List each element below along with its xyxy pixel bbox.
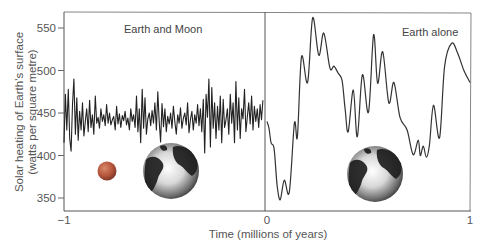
earth-illustration-left [143, 143, 199, 199]
top-border [64, 12, 471, 13]
y-tick-label: 400 [37, 150, 56, 162]
panel-label-earth-alone: Earth alone [402, 26, 458, 38]
y-tick-label: 500 [37, 65, 56, 77]
y-tick-label: 350 [37, 192, 56, 204]
series-line-earth-and-moon [64, 79, 263, 153]
x-tick-label: 0 [264, 214, 270, 226]
x-tick-label: −1 [57, 214, 70, 226]
moon-illustration [98, 162, 117, 181]
y-axis-title: Solar heating of Earth's surface [13, 32, 25, 192]
earth-illustration-right [347, 146, 403, 202]
x-axis-ticks: −101 [57, 214, 473, 226]
right-border [470, 13, 471, 211]
x-axis-title: Time (millions of years) [209, 228, 328, 240]
y-tick-label: 450 [37, 107, 56, 119]
y-tick-label: 550 [37, 22, 56, 34]
x-tick-label: 1 [467, 214, 473, 226]
chart: 350400450500550 −101 Solar heating of Ea… [0, 0, 491, 246]
panel-label-earth-and-moon: Earth and Moon [124, 23, 202, 35]
y-axis-ticks: 350400450500550 [37, 22, 64, 204]
y-axis-title-units: (watts per square metre) [26, 49, 38, 174]
